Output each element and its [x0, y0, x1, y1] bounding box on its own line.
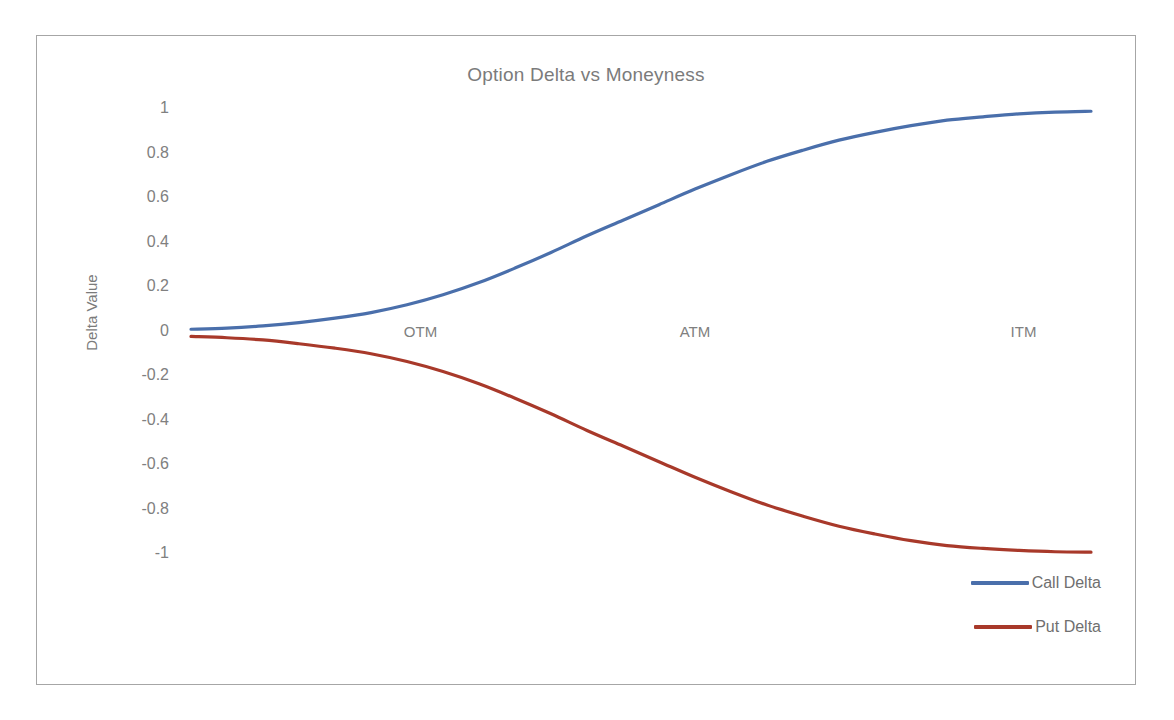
zone-label-atm: ATM	[680, 323, 711, 340]
legend-item[interactable]: Call Delta	[971, 574, 1101, 592]
line-call-delta	[191, 111, 1091, 329]
legend-label: Call Delta	[1032, 574, 1101, 592]
legend-color-swatch	[974, 625, 1032, 629]
chart-plot-region: Option Delta vs Moneyness Delta Value 10…	[37, 36, 1135, 684]
zone-label-otm: OTM	[404, 323, 437, 340]
chart-legend: Call DeltaPut Delta	[971, 574, 1101, 636]
zone-label-itm: ITM	[1011, 323, 1037, 340]
legend-item[interactable]: Put Delta	[971, 618, 1101, 636]
chart-container: Option Delta vs Moneyness Delta Value 10…	[36, 35, 1136, 685]
legend-color-swatch	[971, 581, 1029, 585]
line-put-delta	[191, 336, 1091, 552]
legend-label: Put Delta	[1035, 618, 1101, 636]
